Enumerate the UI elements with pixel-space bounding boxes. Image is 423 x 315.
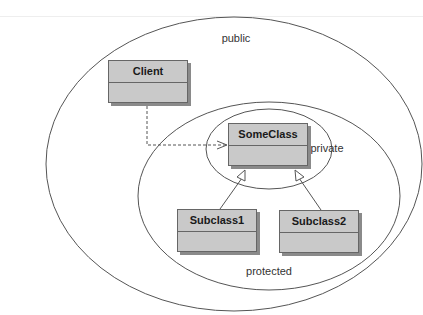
private-scope-label: private [310,142,343,154]
protected-scope-label: protected [246,265,292,277]
class-subclass2[interactable]: Subclass2 [279,210,359,253]
dependency-arrow [147,106,227,149]
class-client[interactable]: Client [108,60,188,103]
class-name: SomeClass [229,124,307,146]
class-subclass1[interactable]: Subclass1 [177,209,257,252]
class-name: Client [109,61,187,83]
class-body [178,232,256,252]
class-body [280,233,358,253]
generalization-arrow-subclass1 [220,170,245,209]
class-someclass[interactable]: SomeClass [228,123,308,166]
public-scope-label: public [222,32,251,44]
class-body [109,83,187,103]
class-name: Subclass2 [280,211,358,233]
diagram-canvas [0,0,423,315]
class-name: Subclass1 [178,210,256,232]
generalization-arrow-subclass2 [295,170,321,210]
class-body [229,146,307,166]
